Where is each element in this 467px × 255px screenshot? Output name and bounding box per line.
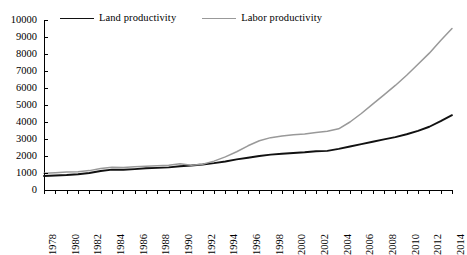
x-axis-tick-mark bbox=[169, 190, 170, 194]
y-axis-tick-mark bbox=[44, 190, 48, 191]
y-axis-tick-mark bbox=[44, 139, 48, 140]
y-axis-tick-label: 3000 bbox=[16, 133, 37, 145]
x-axis-labels: 1978198019821984198619881990199219941996… bbox=[0, 196, 464, 238]
x-axis-tick-mark bbox=[203, 190, 204, 194]
x-axis-tick-mark bbox=[259, 190, 260, 194]
x-axis-tick-mark bbox=[429, 190, 430, 194]
legend-swatch-labor-productivity bbox=[202, 18, 236, 19]
y-axis-tick-mark bbox=[44, 88, 48, 89]
x-axis-tick-mark bbox=[271, 190, 272, 194]
x-axis-tick-mark bbox=[407, 190, 408, 194]
x-axis-tick-mark bbox=[305, 190, 306, 194]
x-axis-tick-mark bbox=[395, 190, 396, 194]
x-axis-tick-label: 2010 bbox=[411, 234, 422, 255]
x-axis-tick-label: 2002 bbox=[320, 234, 331, 255]
x-axis-tick-mark bbox=[157, 190, 158, 194]
x-axis-tick-mark bbox=[146, 190, 147, 194]
y-axis-tick-mark bbox=[44, 173, 48, 174]
y-axis-tick-label: 9000 bbox=[16, 31, 37, 43]
series-line-labor-productivity bbox=[44, 29, 452, 174]
y-axis-tick-mark bbox=[44, 20, 48, 21]
y-axis-tick-label: 1000 bbox=[16, 167, 37, 179]
x-axis-tick-mark bbox=[293, 190, 294, 194]
x-axis-tick-mark bbox=[101, 190, 102, 194]
x-axis-tick-mark bbox=[441, 190, 442, 194]
x-axis-tick-mark bbox=[55, 190, 56, 194]
x-axis-tick-mark bbox=[350, 190, 351, 194]
x-axis-tick-mark bbox=[373, 190, 374, 194]
x-axis-tick-label: 1990 bbox=[184, 234, 195, 255]
x-axis-tick-mark bbox=[214, 190, 215, 194]
x-axis-tick-mark bbox=[67, 190, 68, 194]
y-axis-tick-mark bbox=[44, 122, 48, 123]
x-axis-tick-label: 2014 bbox=[456, 234, 467, 255]
x-axis-tick-mark bbox=[452, 190, 453, 194]
x-axis-tick-mark bbox=[361, 190, 362, 194]
x-axis-tick-label: 2012 bbox=[433, 234, 444, 255]
y-axis-tick-label: 10000 bbox=[11, 14, 37, 26]
x-axis-tick-label: 1988 bbox=[161, 234, 172, 255]
x-axis-tick-label: 1986 bbox=[139, 234, 150, 255]
x-axis-tick-label: 1996 bbox=[252, 234, 263, 255]
x-axis-tick-label: 2000 bbox=[297, 234, 308, 255]
y-axis-tick-mark bbox=[44, 54, 48, 55]
y-axis-tick-label: 7000 bbox=[16, 65, 37, 77]
x-axis-tick-mark bbox=[135, 190, 136, 194]
x-axis-tick-mark bbox=[237, 190, 238, 194]
plot-area bbox=[44, 20, 452, 190]
x-axis-tick-mark bbox=[180, 190, 181, 194]
x-axis-tick-mark bbox=[89, 190, 90, 194]
x-axis-tick-mark bbox=[123, 190, 124, 194]
x-axis-tick-mark bbox=[248, 190, 249, 194]
y-axis-tick-mark bbox=[44, 37, 48, 38]
x-axis-tick-mark bbox=[112, 190, 113, 194]
y-axis-tick-mark bbox=[44, 71, 48, 72]
x-axis-tick-mark bbox=[316, 190, 317, 194]
x-axis-tick-label: 2008 bbox=[388, 234, 399, 255]
y-axis-tick-label: 8000 bbox=[16, 48, 37, 60]
x-axis-tick-label: 1994 bbox=[229, 234, 240, 255]
y-axis-tick-mark bbox=[44, 156, 48, 157]
x-axis-tick-mark bbox=[418, 190, 419, 194]
x-axis-tick-mark bbox=[327, 190, 328, 194]
x-axis-tick-label: 1998 bbox=[275, 234, 286, 255]
x-axis-tick-label: 1984 bbox=[116, 234, 127, 255]
y-axis-tick-label: 6000 bbox=[16, 82, 37, 94]
series-canvas bbox=[44, 20, 452, 190]
x-axis-tick-mark bbox=[339, 190, 340, 194]
x-axis-tick-label: 1978 bbox=[48, 234, 59, 255]
x-axis-tick-mark bbox=[282, 190, 283, 194]
x-axis-tick-mark bbox=[225, 190, 226, 194]
y-axis-tick-label: 2000 bbox=[16, 150, 37, 162]
y-axis-tick-mark bbox=[44, 105, 48, 106]
x-axis-tick-label: 2006 bbox=[365, 234, 376, 255]
x-axis-tick-mark bbox=[78, 190, 79, 194]
x-axis-tick-mark bbox=[191, 190, 192, 194]
x-axis-ticks bbox=[0, 190, 464, 195]
x-axis-tick-label: 2004 bbox=[343, 234, 354, 255]
legend-swatch-land-productivity bbox=[60, 18, 94, 19]
x-axis-tick-label: 1982 bbox=[93, 234, 104, 255]
x-axis-tick-mark bbox=[384, 190, 385, 194]
y-axis-tick-label: 4000 bbox=[16, 116, 37, 128]
x-axis-tick-label: 1992 bbox=[207, 234, 218, 255]
x-axis-tick-label: 1980 bbox=[71, 234, 82, 255]
y-axis-tick-label: 5000 bbox=[16, 99, 37, 111]
